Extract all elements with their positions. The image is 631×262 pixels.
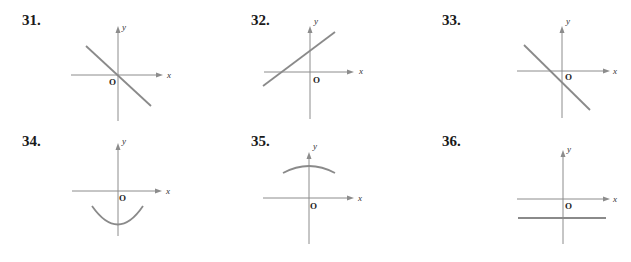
y-axis-label: y bbox=[121, 136, 126, 146]
x-axis-arrow-icon bbox=[156, 73, 163, 78]
graph-34: x y O bbox=[0, 131, 210, 262]
x-axis-arrow-icon bbox=[347, 196, 354, 201]
problem-35: 35. x y O bbox=[210, 131, 420, 262]
problem-31: 31. x y O bbox=[0, 0, 210, 131]
graph-35: x y O bbox=[210, 131, 420, 262]
x-axis-label: x bbox=[612, 66, 617, 76]
problem-36: 36. x y O bbox=[420, 131, 630, 262]
y-axis-label: y bbox=[566, 144, 571, 154]
x-axis-arrow-icon bbox=[155, 189, 162, 194]
y-axis-label: y bbox=[312, 141, 317, 151]
graph-33: x y O bbox=[420, 0, 631, 131]
graph-line bbox=[524, 45, 590, 110]
x-axis-label: x bbox=[612, 194, 617, 204]
problem-33: 33. x y O bbox=[420, 0, 630, 131]
graph-31: x y O bbox=[0, 0, 210, 131]
x-axis-arrow-icon bbox=[603, 69, 610, 74]
problem-32: 32. x y O bbox=[210, 0, 420, 131]
y-axis-arrow-icon bbox=[116, 26, 121, 33]
origin-label: O bbox=[313, 75, 320, 85]
y-axis-arrow-icon bbox=[560, 26, 565, 33]
y-axis-arrow-icon bbox=[561, 150, 566, 157]
x-axis-label: x bbox=[166, 70, 171, 80]
x-axis-label: x bbox=[357, 193, 362, 203]
x-axis-label: x bbox=[165, 186, 170, 196]
origin-label: O bbox=[565, 201, 572, 211]
y-axis-arrow-icon bbox=[308, 26, 313, 33]
y-axis-label: y bbox=[313, 16, 318, 26]
x-axis-label: x bbox=[358, 66, 363, 76]
graph-line bbox=[263, 32, 335, 86]
y-axis-label: y bbox=[121, 22, 126, 32]
origin-label: O bbox=[310, 201, 317, 211]
origin-label: O bbox=[119, 193, 126, 203]
graph-36: x y O bbox=[420, 131, 631, 262]
origin-label: O bbox=[565, 72, 572, 82]
y-axis-arrow-icon bbox=[116, 143, 121, 150]
x-axis-arrow-icon bbox=[603, 197, 610, 202]
graph-32: x y O bbox=[210, 0, 420, 131]
y-axis-label: y bbox=[565, 16, 570, 26]
problem-34: 34. x y O bbox=[0, 131, 210, 262]
origin-label: O bbox=[109, 77, 116, 87]
y-axis-arrow-icon bbox=[307, 152, 312, 159]
x-axis-arrow-icon bbox=[347, 70, 354, 75]
